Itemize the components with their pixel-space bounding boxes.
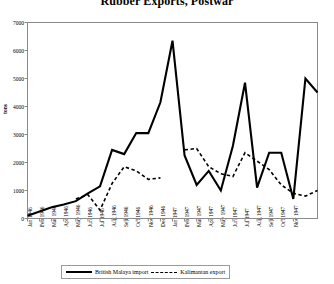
plot-border [28, 23, 318, 219]
chart-figure: Rubber Exports, Postwar tons 01000200030… [0, 0, 334, 284]
legend-label-kalimantan-export: Kalimantan export [180, 269, 225, 275]
plot-frame [28, 23, 318, 219]
legend-label-british-malaya-import: British Malaya import [95, 269, 148, 275]
dashed-line-swatch-icon [151, 272, 177, 273]
plot-area [0, 0, 334, 284]
chart-legend: British Malaya import Kalimantan export [61, 265, 230, 279]
series-line-british-malaya-import [28, 41, 318, 216]
solid-line-swatch-icon [66, 271, 92, 273]
series-line-kalimantan-export [76, 167, 161, 210]
data-series-layer [28, 41, 318, 216]
